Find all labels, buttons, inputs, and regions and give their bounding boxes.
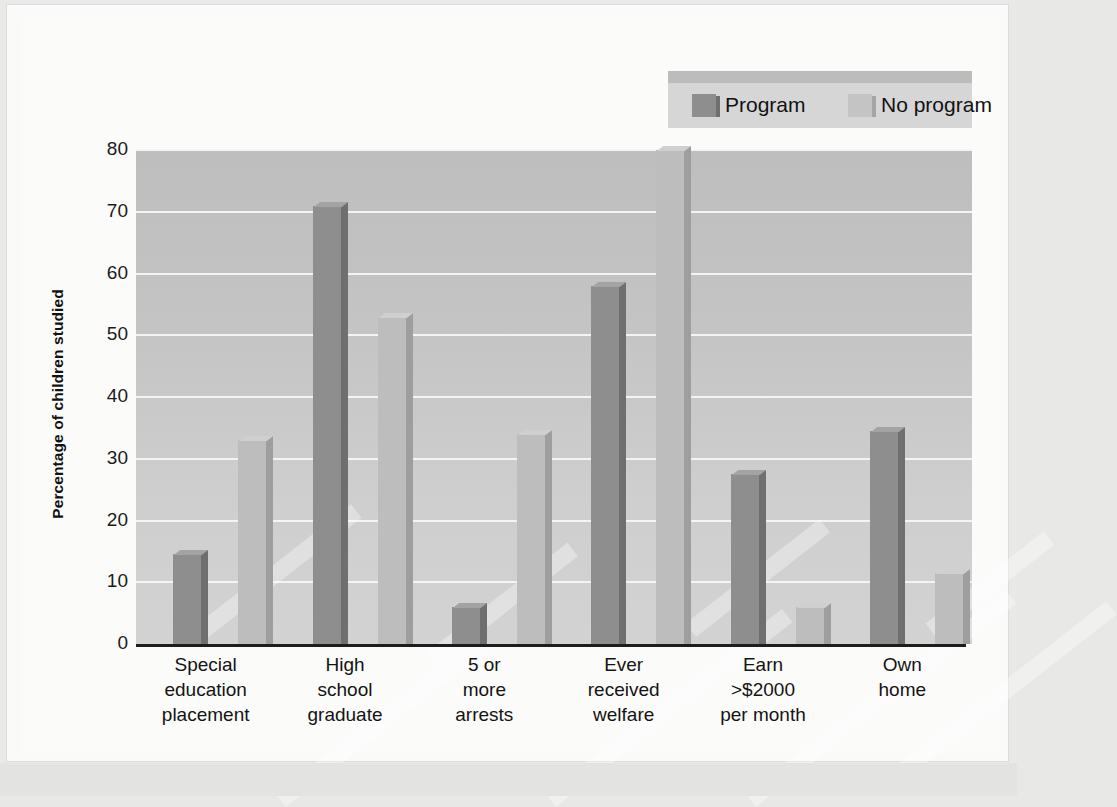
bar-program — [731, 474, 759, 644]
x-axis-label-line: Special — [136, 652, 275, 677]
gridline — [136, 273, 972, 275]
bar-top — [378, 313, 412, 318]
bar-face — [313, 206, 341, 644]
bar-program — [591, 286, 619, 644]
bar-noprogram — [796, 607, 824, 644]
legend-swatch-side — [716, 96, 720, 117]
x-axis-label: Highschoolgraduate — [275, 652, 414, 727]
bar-side — [684, 146, 691, 644]
bar-face — [591, 286, 619, 644]
legend-item-noprogram: No program — [848, 89, 992, 121]
bar-program — [173, 554, 201, 644]
bar-side — [545, 430, 552, 644]
x-axis-label: Earn>$2000per month — [693, 652, 832, 727]
x-axis-label: Specialeducationplacement — [136, 652, 275, 727]
bar-side — [201, 550, 208, 644]
bar-noprogram — [238, 440, 266, 644]
x-axis-label-line: school — [275, 677, 414, 702]
bar-side — [824, 603, 831, 644]
plot-area — [136, 150, 972, 644]
bar-side — [898, 427, 905, 644]
bar-face — [656, 150, 684, 644]
bar-side — [266, 436, 273, 644]
bar-face — [238, 440, 266, 644]
legend-label: Program — [725, 93, 806, 117]
y-axis-title: Percentage of children studied — [49, 194, 67, 614]
x-axis-label-line: graduate — [275, 702, 414, 727]
bar-face — [731, 474, 759, 644]
gridline — [136, 396, 972, 398]
bar-noprogram — [378, 317, 406, 644]
legend-swatch-program — [692, 94, 716, 117]
bar-face — [517, 434, 545, 644]
y-axis-ticks: 01020304050607080 — [86, 150, 128, 644]
background-streak — [426, 543, 578, 667]
legend-swatch-noprogram — [848, 94, 872, 117]
x-axis-label-line: received — [554, 677, 693, 702]
bar-program — [870, 431, 898, 644]
legend-items: ProgramNo program — [668, 83, 972, 128]
x-axis-label-line: welfare — [554, 702, 693, 727]
bar-side — [759, 470, 766, 644]
legend-label: No program — [881, 93, 992, 117]
y-axis-tick-label: 20 — [86, 509, 128, 531]
y-axis-tick-label: 30 — [86, 447, 128, 469]
y-axis-tick-label: 40 — [86, 385, 128, 407]
legend-item-program: Program — [692, 89, 806, 121]
gridline — [136, 334, 972, 336]
bar-side — [406, 313, 413, 644]
bar-side — [619, 282, 626, 644]
x-axis-label: Ownhome — [833, 652, 972, 702]
x-axis-label-line: Own — [833, 652, 972, 677]
bar-noprogram — [935, 573, 963, 644]
y-axis-tick-label: 50 — [86, 323, 128, 345]
x-axis-label-line: >$2000 — [693, 677, 832, 702]
bar-face — [796, 607, 824, 644]
chart-legend: ProgramNo program — [668, 71, 972, 128]
x-axis-label-line: arrests — [415, 702, 554, 727]
x-axis-labels: SpecialeducationplacementHighschoolgradu… — [136, 652, 972, 747]
bar-top — [796, 603, 830, 608]
bar-noprogram — [517, 434, 545, 644]
x-axis-label: Everreceivedwelfare — [554, 652, 693, 727]
bar-face — [870, 431, 898, 644]
bar-side — [480, 603, 487, 644]
bar-face — [173, 554, 201, 644]
y-axis-tick-label: 80 — [86, 138, 128, 160]
bar-program — [313, 206, 341, 644]
x-axis-label-line: 5 or — [415, 652, 554, 677]
x-axis-label-line: Ever — [554, 652, 693, 677]
x-axis-label-line: home — [833, 677, 972, 702]
gridline — [136, 211, 972, 213]
y-axis-tick-label: 60 — [86, 262, 128, 284]
x-axis-label-line: education — [136, 677, 275, 702]
legend-top-bar — [668, 71, 972, 83]
bar-face — [935, 573, 963, 644]
x-axis-label-line: High — [275, 652, 414, 677]
x-axis-label-line: placement — [136, 702, 275, 727]
x-axis-line — [136, 644, 966, 647]
x-axis-label-line: Earn — [693, 652, 832, 677]
x-axis-label: 5 ormorearrests — [415, 652, 554, 727]
y-axis-tick-label: 0 — [86, 632, 128, 654]
bar-top — [313, 202, 347, 207]
bar-face — [452, 607, 480, 644]
bar-side — [341, 202, 348, 644]
y-axis-tick-label: 70 — [86, 200, 128, 222]
x-axis-label-line: per month — [693, 702, 832, 727]
page-bottom-margin — [0, 763, 1017, 796]
x-axis-label-line: more — [415, 677, 554, 702]
gridline — [136, 149, 972, 151]
bar-noprogram — [656, 150, 684, 644]
y-axis-tick-label: 10 — [86, 570, 128, 592]
bar-side — [963, 569, 970, 644]
bar-face — [378, 317, 406, 644]
bar-program — [452, 607, 480, 644]
legend-swatch-side — [872, 96, 876, 117]
